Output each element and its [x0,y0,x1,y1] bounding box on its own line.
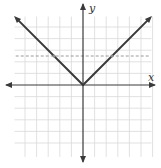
intersection-point [110,54,113,57]
y-axis-up-arrow-icon [80,3,86,10]
y-axis-label: y [88,2,96,15]
coordinate-plane: y x [0,0,161,168]
x-axis-label: x [148,71,155,84]
intersection-point [52,54,55,57]
x-axis-left-arrow-icon [5,82,12,88]
y-axis-down-arrow-icon [80,156,86,163]
